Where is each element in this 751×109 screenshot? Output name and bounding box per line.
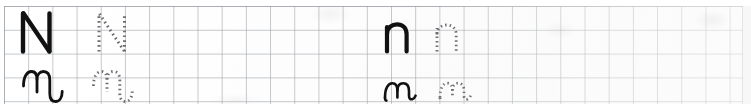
worksheet-sheet bbox=[0, 0, 751, 109]
page-top-margin bbox=[0, 0, 751, 6]
page-bottom-margin bbox=[0, 104, 751, 109]
scan-artifacts bbox=[0, 0, 751, 109]
